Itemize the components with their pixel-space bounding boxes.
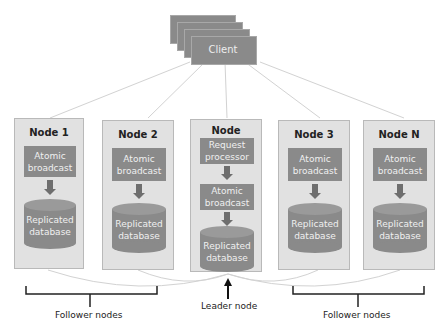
right-follower-bracket [293, 286, 424, 294]
leader-node-label: Leader node [201, 301, 257, 311]
follower-nodes-label-left: Follower nodes [55, 310, 122, 320]
follower-nodes-label-right: Follower nodes [323, 310, 390, 320]
leader-pointer-arrow [224, 278, 232, 299]
left-follower-bracket [26, 286, 157, 294]
brackets [0, 0, 445, 331]
